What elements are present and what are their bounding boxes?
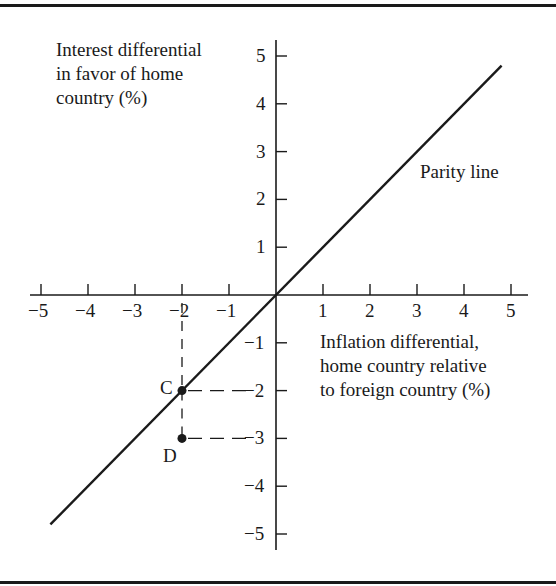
point-d-label: D — [163, 444, 177, 468]
x-tick-label: −2 — [169, 301, 189, 321]
y-tick-label: 3 — [256, 142, 266, 162]
y-tick-label: 2 — [256, 189, 266, 209]
y-tick-label: −2 — [244, 381, 264, 401]
y-axis-label-line-2: in favor of home — [56, 62, 202, 86]
x-axis-label-line-1: Inflation differential, — [320, 330, 490, 354]
x-axis-label-line-3: to foreign country (%) — [320, 378, 490, 402]
x-tick-label: 1 — [318, 301, 328, 321]
y-axis-label-line-3: country (%) — [56, 86, 202, 110]
chart-area: Interest differential in favor of home c… — [0, 0, 556, 586]
point-c-label: C — [160, 376, 173, 400]
x-tick-label: 3 — [412, 301, 422, 321]
y-tick-label: −5 — [244, 524, 264, 544]
point-c-marker — [178, 386, 187, 395]
y-tick-label: 5 — [256, 46, 266, 66]
x-tick-label: −1 — [216, 301, 236, 321]
x-axis-label: Inflation differential, home country rel… — [320, 330, 490, 402]
point-d-marker — [178, 434, 187, 443]
y-tick-label: 1 — [256, 237, 266, 257]
x-tick-label: −5 — [28, 301, 48, 321]
x-tick-label: 4 — [459, 301, 469, 321]
y-tick-label: −4 — [244, 476, 264, 496]
y-tick-label: −3 — [244, 428, 264, 448]
x-axis-label-line-2: home country relative — [320, 354, 490, 378]
y-axis-label: Interest differential in favor of home c… — [56, 38, 202, 110]
parity-line-label: Parity line — [420, 160, 499, 184]
x-tick-label: −4 — [75, 301, 95, 321]
x-tick-label: 5 — [506, 301, 516, 321]
y-axis-label-line-1: Interest differential — [56, 38, 202, 62]
x-tick-label: −3 — [122, 301, 142, 321]
x-tick-label: 2 — [365, 301, 375, 321]
y-tick-label: −1 — [244, 333, 264, 353]
y-tick-label: 4 — [256, 94, 266, 114]
